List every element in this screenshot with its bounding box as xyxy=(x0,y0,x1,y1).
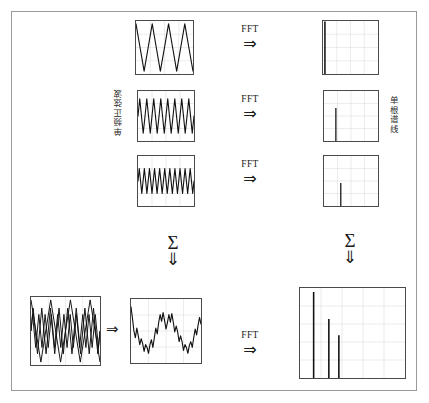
fft-arrow-icon-3: ⇒ xyxy=(227,171,273,187)
overlay-waveform-plot xyxy=(31,297,100,365)
waveform-plot-2 xyxy=(138,91,194,141)
combined-spectrum-plot xyxy=(300,288,405,378)
waveform-plot-1 xyxy=(136,21,193,74)
grid-lines-combined xyxy=(300,288,405,378)
right-vertical-caption: 单根谱线 xyxy=(388,96,397,134)
spectrum-plot-2 xyxy=(324,91,378,141)
grid-lines-s1 xyxy=(323,21,378,74)
fft-operator-3: FFT ⇒ xyxy=(227,160,273,187)
left-vertical-caption: 单频正弦波 xyxy=(115,88,124,136)
fft-arrow-icon-2: ⇒ xyxy=(227,106,273,122)
summed-waveform-panel xyxy=(130,298,202,364)
fft-operator-2: FFT ⇒ xyxy=(227,95,273,122)
fft-decomposition-figure: FFT ⇒ xyxy=(0,0,429,403)
overlay-waveform-panel xyxy=(30,296,101,366)
waveform-panel-3 xyxy=(137,155,195,207)
fft-operator-1: FFT ⇒ xyxy=(227,25,273,52)
spectrum-plot-1 xyxy=(323,21,378,74)
sum-arrow-icon-right: ⇓ xyxy=(325,249,375,266)
fft-operator-4: FFT ⇒ xyxy=(227,331,273,358)
grid-lines-s2 xyxy=(324,91,378,141)
waveform-panel-2 xyxy=(137,90,195,142)
fft-arrow-icon-4: ⇒ xyxy=(227,342,273,358)
spectrum-panel-1 xyxy=(322,20,379,75)
waveform-plot-3 xyxy=(138,156,194,206)
spectrum-plot-3 xyxy=(324,156,378,206)
grid-lines-s3 xyxy=(324,156,378,206)
spectrum-panel-3 xyxy=(323,155,379,207)
spectrum-panel-2 xyxy=(323,90,379,142)
sum-operator-left: Σ ⇓ xyxy=(148,233,198,268)
combined-spectrum-panel xyxy=(299,287,406,379)
sum-arrow-icon-left: ⇓ xyxy=(148,251,198,268)
combine-arrow-icon: ⇒ xyxy=(106,322,119,337)
grid-lines-sum xyxy=(131,299,201,363)
sum-operator-right: Σ ⇓ xyxy=(325,231,375,266)
waveform-panel-1 xyxy=(135,20,194,75)
summed-waveform-plot xyxy=(131,299,201,363)
fft-arrow-icon-1: ⇒ xyxy=(227,36,273,52)
